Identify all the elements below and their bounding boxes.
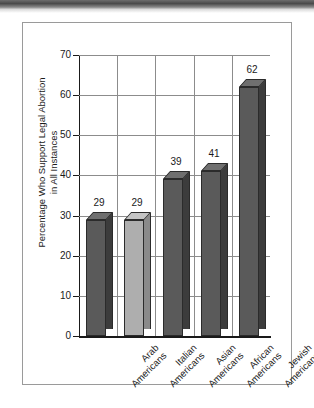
bar-side-face (144, 213, 151, 329)
chart-card: Percentage Who Support Legal Abortion in… (22, 22, 292, 385)
bar-front-face (86, 220, 106, 336)
bar-value-label: 62 (232, 64, 272, 75)
y-axis-tick (73, 216, 79, 217)
y-axis-tick-labels: 010203040506070 (37, 23, 71, 386)
bar-front-face (201, 171, 221, 336)
bar-front-face (239, 87, 259, 336)
plot-area: 2929394162 (79, 55, 270, 336)
y-axis-tick-label: 0 (41, 330, 71, 341)
bar-side-face (106, 213, 113, 329)
bar-side-face (259, 80, 266, 329)
bar-column (201, 171, 221, 336)
gridline-vertical (232, 55, 233, 336)
bar-column (163, 179, 183, 336)
y-axis-tick-label: 60 (41, 89, 71, 100)
scan-edge-band (0, 0, 314, 9)
y-axis-tick (73, 256, 79, 257)
bar-side-face (221, 164, 228, 329)
bar-column (86, 220, 106, 336)
gridline-vertical (155, 55, 156, 336)
bar-value-label: 29 (117, 197, 157, 208)
y-axis-tick-label: 20 (41, 250, 71, 261)
y-axis-tick (73, 175, 79, 176)
y-axis-tick (73, 55, 79, 56)
y-axis-tick-label: 40 (41, 169, 71, 180)
y-axis-tick-label: 50 (41, 129, 71, 140)
y-axis-tick (73, 296, 79, 297)
y-axis-tick (73, 95, 79, 96)
bar-value-label: 41 (194, 148, 234, 159)
bar-value-label: 29 (79, 197, 119, 208)
y-axis-tick (73, 336, 79, 337)
y-axis-tick-label: 10 (41, 290, 71, 301)
y-axis-tick-label: 30 (41, 210, 71, 221)
bar-side-face (183, 172, 190, 329)
bar-chart: Percentage Who Support Legal Abortion in… (23, 23, 293, 386)
bar-column (239, 87, 259, 336)
bar-column (124, 220, 144, 336)
y-axis-tick-label: 70 (41, 49, 71, 60)
gridline-vertical (117, 55, 118, 336)
y-axis-tick (73, 135, 79, 136)
gridline-horizontal (79, 55, 270, 56)
bar-front-face (124, 220, 144, 336)
x-axis-line (79, 336, 271, 338)
bar-front-face (163, 179, 183, 336)
gridline-vertical (194, 55, 195, 336)
bar-value-label: 39 (156, 156, 196, 167)
